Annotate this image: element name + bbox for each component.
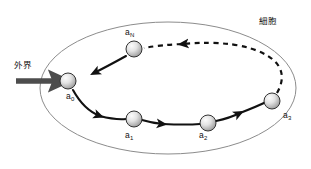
node-a0[interactable] [60,73,76,89]
edge-a1-to-a2-tail [163,124,200,125]
node-a3[interactable] [264,93,280,109]
node-aN[interactable] [126,41,142,57]
node-a2[interactable] [200,115,216,131]
cell-boundary [40,22,296,154]
cell-cycle-diagram [0,0,311,169]
node-a1[interactable] [126,111,142,127]
diagram-canvas: 細胞 外界 a0 a1 a2 a3 aN [0,0,311,169]
